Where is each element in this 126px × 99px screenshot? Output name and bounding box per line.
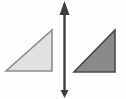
- figure-svg: [0, 0, 126, 99]
- figure-canvas: [0, 0, 126, 99]
